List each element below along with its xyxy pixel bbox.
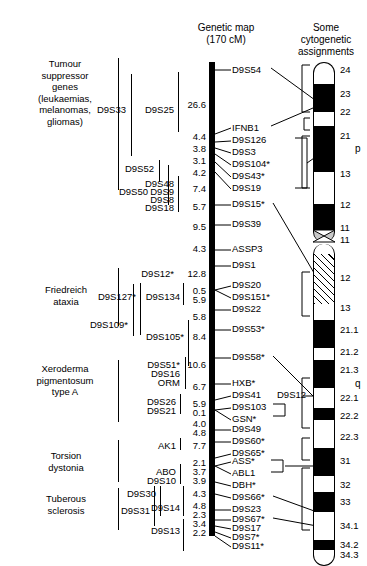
band-label-p21: 21	[340, 130, 351, 141]
band-label-q22-3: 22.3	[340, 431, 359, 442]
ideogram-band-q34-3	[313, 550, 335, 566]
distance-value: 2.2	[182, 527, 206, 538]
ideogram-band-p24	[313, 62, 335, 84]
ideogram-band-q34-2	[313, 540, 335, 550]
left-marker-d9s13: D9S13	[124, 525, 180, 536]
distance-value: 10.6	[180, 359, 206, 370]
right-marker-dbh: DBH*	[232, 479, 256, 490]
band-label-q34-3: 34.3	[340, 549, 359, 560]
ideogram-band-p12	[313, 204, 335, 230]
distance-value: 6.7	[182, 381, 206, 392]
disease-group-xeroderma-pigmentosum: Xeroderma pigmentosum type A	[14, 363, 116, 398]
ideogram-band-p13	[313, 172, 335, 204]
ideogram-band-q21-1	[313, 320, 335, 348]
left-marker-orm: ORM	[120, 377, 180, 388]
disease-group-torsion-dystonia: Torsion dystonia	[18, 450, 114, 473]
band-label-q22-1: 22.1	[340, 392, 359, 403]
arm-label-q: q	[355, 378, 361, 389]
band-label-p13: 13	[340, 168, 351, 179]
genetic-map-header: Genetic map (170 cM)	[178, 22, 274, 46]
left-marker-d9s25: D9S25	[118, 104, 174, 115]
distance-value: 5.7	[182, 201, 206, 212]
distance-value: 9.5	[182, 221, 206, 232]
chromosome-ideogram	[313, 62, 335, 532]
disease-line: gliomas)	[14, 116, 116, 128]
distance-value: 3.8	[182, 143, 206, 154]
span-bar-d9s48-cluster	[178, 176, 179, 212]
span-bar-d9s109	[133, 284, 134, 336]
ideogram-band-q22-3	[313, 420, 335, 448]
span-bar-d9s10	[180, 473, 181, 484]
distance-value: 0.1	[182, 407, 206, 418]
disease-group-tumour-suppressor: Tumour suppressor genes (leukaemias, mel…	[14, 58, 116, 127]
band-label-q13: 13	[340, 302, 351, 313]
left-marker-d9s10: D9S10	[116, 475, 176, 486]
band-label-q21-3: 21.3	[340, 364, 359, 375]
right-marker-abl1: ABL1	[232, 467, 255, 478]
ideogram-band-q12	[313, 254, 335, 304]
distance-value: 4.8	[182, 427, 206, 438]
cytogenetic-title-1: Some	[286, 22, 366, 34]
left-marker-d9s52: D9S52	[98, 163, 154, 174]
ideogram-band-p21	[313, 126, 335, 172]
distance-value: 3.9	[182, 475, 206, 486]
band-label-q21-2: 21.2	[340, 346, 359, 357]
ideogram-band-q13	[313, 304, 335, 320]
disease-line: dystonia	[18, 462, 114, 474]
span-bar-d9s25	[178, 72, 179, 132]
cytogenetic-title-3: assignments	[286, 46, 366, 58]
band-label-q32: 32	[340, 479, 351, 490]
distance-value: 26.6	[182, 99, 206, 110]
ideogram-band-q22-2	[313, 408, 335, 420]
cytogenetic-header: Some cytogenetic assignments	[286, 22, 366, 58]
left-marker-d9s30: D9S30	[96, 488, 156, 499]
band-label-q12: 12	[340, 272, 351, 283]
band-label-p23: 23	[340, 88, 351, 99]
span-bar-d9s33	[131, 74, 132, 156]
centromere	[311, 228, 337, 248]
span-bar-ak1	[180, 438, 181, 450]
disease-line: Torsion	[18, 450, 114, 462]
distance-value: 7.4	[182, 183, 206, 194]
distance-value: 7.7	[182, 440, 206, 451]
genetic-map-title: Genetic map	[178, 22, 274, 34]
arm-label-p: p	[355, 143, 361, 154]
cytogenetic-title-2: cytogenetic	[286, 34, 366, 46]
distance-value: 4.2	[182, 167, 206, 178]
genetic-map-length: (170 cM)	[178, 34, 274, 46]
ideogram-band-q32	[313, 476, 335, 492]
ideogram-band-q33	[313, 492, 335, 512]
ideogram-band-p23	[313, 84, 335, 112]
left-marker-ak1: AK1	[120, 440, 176, 451]
left-marker-d9s14: D9S14	[124, 502, 180, 513]
span-bar-d9s26-cluster	[180, 394, 181, 414]
ideogram-band-q22-1	[313, 388, 335, 408]
right-marker-d9s1: D9S1	[232, 259, 256, 270]
distance-value: 4.4	[182, 131, 206, 142]
distance-value: 4.3	[182, 488, 206, 499]
right-marker-d9s3: D9S3	[232, 146, 256, 157]
right-marker-hxb: HXB*	[232, 377, 255, 388]
band-label-p22: 22	[340, 106, 351, 117]
ideogram-band-q31	[313, 448, 335, 476]
disease-line: suppressor	[14, 70, 116, 82]
band-label-q11: 11	[340, 234, 350, 245]
disease-line: type A	[14, 386, 116, 398]
distance-value: 5.9	[182, 294, 206, 305]
disease-line: genes	[14, 81, 116, 93]
distance-value: 5.8	[182, 311, 206, 322]
ideogram-band-q21-2	[313, 348, 335, 360]
right-marker-d9s11: D9S11*	[232, 540, 264, 551]
disease-line: pigmentosum	[14, 375, 116, 387]
band-label-p24: 24	[340, 64, 351, 75]
distance-value: 3.1	[182, 155, 206, 166]
left-marker-d9s12: D9S12*	[118, 268, 174, 279]
distance-value: 8.4	[182, 331, 206, 342]
band-label-q34-1: 34.1	[340, 520, 359, 531]
left-marker-d9s21: D9S21	[116, 405, 176, 416]
band-label-q31: 31	[340, 455, 351, 466]
distance-value: 12.8	[180, 268, 206, 279]
disease-line: Xeroderma	[14, 363, 116, 375]
disease-line: Tumour	[14, 58, 116, 70]
band-label-q33: 33	[340, 496, 351, 507]
